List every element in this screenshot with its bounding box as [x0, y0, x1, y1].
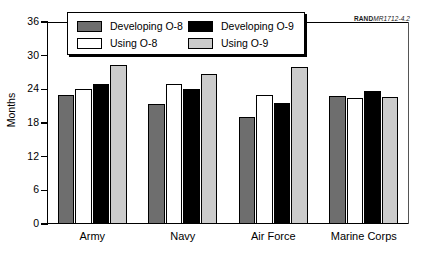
bar — [347, 98, 364, 224]
rand-brand-label: RAND — [354, 15, 373, 22]
y-axis-tick — [41, 156, 48, 157]
y-axis-tick-label: 0 — [5, 218, 39, 229]
y-axis-tick-label: 12 — [5, 151, 39, 162]
bar — [148, 104, 165, 224]
rand-attribution: RANDMR1712-4.2 — [354, 15, 410, 22]
x-axis-category-label: Marine Corps — [304, 230, 421, 242]
bar — [166, 84, 183, 224]
rand-document-label: MR1712-4.2 — [373, 15, 410, 22]
legend-item: Using O-9 — [188, 36, 268, 50]
y-axis-tick-label: 24 — [5, 83, 39, 94]
y-axis-tick-label: 6 — [5, 184, 39, 195]
y-axis-tick — [41, 122, 48, 123]
bar — [201, 74, 218, 224]
y-axis-tick — [41, 89, 48, 90]
bar — [274, 103, 291, 224]
legend-color-swatch — [188, 21, 213, 32]
y-axis-tick — [41, 223, 48, 224]
legend-color-swatch — [77, 38, 102, 49]
bar — [93, 84, 110, 224]
bar — [329, 96, 346, 224]
bar — [291, 67, 308, 224]
legend-item: Developing O-9 — [188, 19, 294, 33]
bar — [382, 97, 399, 224]
legend-label: Using O-8 — [110, 38, 157, 49]
bar — [256, 95, 273, 224]
bar — [364, 91, 381, 224]
legend-color-swatch — [77, 21, 102, 32]
chart-legend: Developing O-8Developing O-9Using O-8Usi… — [67, 12, 305, 55]
bar — [58, 95, 75, 224]
legend-label: Developing O-8 — [110, 21, 183, 32]
bar — [110, 65, 127, 224]
bar — [183, 89, 200, 224]
legend-item: Using O-8 — [77, 36, 157, 50]
y-axis-tick-label: 18 — [5, 117, 39, 128]
y-axis-tick — [41, 190, 48, 191]
legend-item: Developing O-8 — [77, 19, 183, 33]
legend-label: Using O-9 — [221, 38, 268, 49]
bar — [239, 117, 256, 224]
y-axis-tick — [41, 21, 48, 22]
legend-label: Developing O-9 — [221, 21, 294, 32]
y-axis-tick-label: 30 — [5, 50, 39, 61]
legend-color-swatch — [188, 38, 213, 49]
bar — [75, 89, 92, 224]
y-axis-tick — [41, 55, 48, 56]
bar-chart: RANDMR1712-4.2 Months 061218243036 Devel… — [0, 0, 421, 260]
y-axis-tick-label: 36 — [5, 16, 39, 27]
y-axis-tick-labels: 061218243036 — [0, 0, 39, 260]
